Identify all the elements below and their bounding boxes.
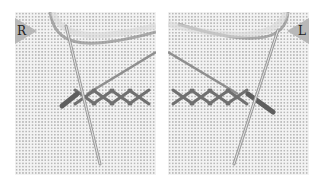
- stitch-illustration-left: [15, 12, 156, 175]
- panel-right: L: [168, 12, 309, 175]
- panel-left: R: [15, 12, 156, 175]
- stitch-illustration-right: [168, 12, 309, 175]
- label-r: R: [17, 24, 26, 38]
- label-l: L: [298, 24, 306, 38]
